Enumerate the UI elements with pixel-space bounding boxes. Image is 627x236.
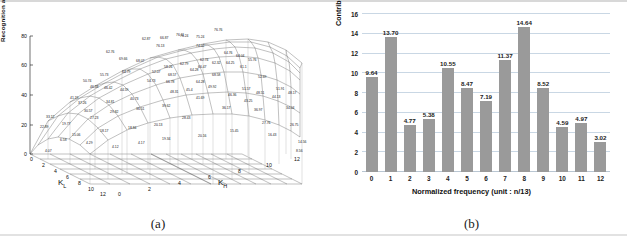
- svg-text:22.89: 22.89: [40, 125, 49, 129]
- svg-text:48.17: 48.17: [288, 91, 297, 95]
- svg-text:46.58: 46.58: [90, 85, 99, 89]
- bar[interactable]: [518, 27, 530, 172]
- svg-text:46.36: 46.36: [228, 93, 237, 97]
- svg-text:19.77: 19.77: [62, 122, 71, 126]
- bar-column[interactable]: 10.55: [438, 14, 457, 172]
- svg-text:76.13: 76.13: [156, 44, 165, 48]
- svg-text:6: 6: [208, 174, 211, 180]
- bar[interactable]: [537, 88, 549, 172]
- svg-text:61.1: 61.1: [240, 65, 247, 69]
- svg-text:64.25: 64.25: [226, 61, 235, 65]
- bar[interactable]: [442, 68, 454, 172]
- svg-text:40.73: 40.73: [130, 97, 139, 101]
- bar-value-label: 9.64: [366, 69, 378, 76]
- panel-b-caption: (b): [316, 216, 627, 232]
- bar-value-label: 11.37: [498, 52, 513, 59]
- bar-column[interactable]: 4.77: [400, 14, 419, 172]
- svg-text:60: 60: [21, 62, 27, 68]
- bar-column[interactable]: 4.97: [572, 14, 591, 172]
- svg-text:66.47: 66.47: [198, 65, 207, 69]
- bar[interactable]: [575, 123, 587, 172]
- bar-column[interactable]: 8.52: [534, 14, 553, 172]
- svg-text:62.87: 62.87: [142, 37, 151, 41]
- surface-z-axis: 0 20 40 60 80: [21, 33, 33, 157]
- svg-text:52.07: 52.07: [152, 70, 161, 74]
- bar-column[interactable]: 3.02: [591, 14, 610, 172]
- svg-text:50.74: 50.74: [83, 79, 92, 83]
- bar-column[interactable]: 13.70: [381, 14, 400, 172]
- svg-text:62.74: 62.74: [200, 58, 209, 62]
- surface-plot-area: Recognition accuracy(%) 0 20 40 60 80: [0, 6, 316, 196]
- bar-chart-plot-area: 0246810121416 9.6413.704.775.3810.558.47…: [362, 14, 610, 172]
- svg-text:62.79: 62.79: [180, 62, 189, 66]
- bar[interactable]: [404, 125, 416, 172]
- bar[interactable]: [385, 37, 397, 172]
- svg-text:36.51: 36.51: [136, 107, 145, 111]
- svg-text:49.92: 49.92: [208, 85, 217, 89]
- svg-text:68.58: 68.58: [212, 73, 221, 77]
- svg-text:52.69: 52.69: [258, 75, 267, 79]
- svg-text:45.4: 45.4: [186, 88, 193, 92]
- svg-text:8: 8: [78, 180, 81, 186]
- bar-column[interactable]: 11.37: [496, 14, 515, 172]
- bar-value-label: 4.97: [575, 115, 587, 122]
- svg-text:58.26: 58.26: [164, 65, 173, 69]
- bar-value-label: 5.38: [423, 111, 435, 118]
- svg-text:41.19: 41.19: [70, 96, 79, 100]
- svg-text:8.56: 8.56: [296, 149, 303, 153]
- bar-column[interactable]: 7.19: [476, 14, 495, 172]
- svg-text:2: 2: [148, 186, 151, 192]
- svg-text:48.51: 48.51: [256, 91, 265, 95]
- surface-kh-ticks: 0 2 4 6 8 10 12: [118, 156, 300, 196]
- bar-column[interactable]: 4.59: [553, 14, 572, 172]
- x-axis-tick-label: 1: [381, 175, 400, 182]
- x-axis-tick-label: 0: [362, 175, 381, 182]
- bar[interactable]: [499, 60, 511, 172]
- x-axis-tick-label: 9: [534, 175, 553, 182]
- svg-text:6.58: 6.58: [60, 138, 67, 142]
- bar-value-label: 7.19: [480, 93, 492, 100]
- svg-text:36.17: 36.17: [222, 106, 231, 110]
- svg-text:18.17: 18.17: [100, 129, 109, 133]
- bar-chart-y-axis-label: Contribution to individual DCT point (%): [334, 12, 343, 26]
- svg-text:76.76: 76.76: [214, 28, 223, 32]
- svg-text:4.17: 4.17: [138, 141, 145, 145]
- bar[interactable]: [480, 101, 492, 172]
- bar[interactable]: [594, 142, 606, 172]
- x-axis-tick-label: 8: [515, 175, 534, 182]
- svg-text:6: 6: [66, 174, 69, 180]
- surface-kl-axis-label: KL: [58, 178, 66, 189]
- svg-text:43.25: 43.25: [244, 99, 253, 103]
- bar[interactable]: [366, 77, 378, 172]
- bar-column[interactable]: 14.64: [515, 14, 534, 172]
- figure-container: Recognition accuracy(%) 0 20 40 60 80: [0, 0, 627, 236]
- svg-text:14.56: 14.56: [298, 140, 307, 144]
- svg-text:0: 0: [24, 151, 27, 157]
- bar[interactable]: [461, 88, 473, 172]
- bar-chart-x-axis-label: Normalized frequency (unit : n/13): [316, 187, 627, 196]
- x-axis-tick-label: 6: [476, 175, 495, 182]
- bar-column[interactable]: 9.64: [362, 14, 381, 172]
- bar-value-label: 8.47: [461, 80, 473, 87]
- y-axis-tick-label: 12: [351, 50, 358, 57]
- svg-text:15.45: 15.45: [230, 129, 239, 133]
- svg-text:19.34: 19.34: [162, 137, 171, 141]
- y-axis-tick-label: 6: [354, 109, 358, 116]
- svg-text:12: 12: [100, 191, 106, 196]
- svg-text:2: 2: [42, 162, 45, 168]
- svg-text:64.04: 64.04: [236, 54, 245, 58]
- bar[interactable]: [423, 119, 435, 172]
- svg-text:12: 12: [294, 156, 300, 162]
- x-axis-tick-label: 5: [457, 175, 476, 182]
- svg-text:0: 0: [118, 191, 121, 196]
- bar-column[interactable]: 8.47: [457, 14, 476, 172]
- svg-text:46.42: 46.42: [104, 86, 113, 90]
- y-axis-tick-label: 2: [354, 148, 358, 155]
- svg-text:8: 8: [238, 168, 241, 174]
- bar[interactable]: [556, 127, 568, 172]
- svg-text:62.76: 62.76: [106, 50, 115, 54]
- svg-text:68.07: 68.07: [136, 59, 145, 63]
- bar-column[interactable]: 5.38: [419, 14, 438, 172]
- kl-label-sub: L: [63, 183, 66, 189]
- bar-chart-x-ticks: 0123456789101112: [362, 175, 610, 182]
